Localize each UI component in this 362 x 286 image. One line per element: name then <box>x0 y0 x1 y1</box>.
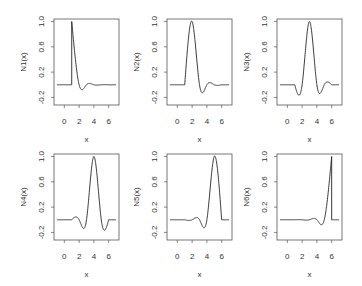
curve-line <box>57 157 116 231</box>
curve-line <box>280 22 339 96</box>
x-tick-label: 2 <box>190 117 195 126</box>
x-tick-label: 2 <box>77 252 82 261</box>
y-tick-label: -0.2 <box>37 225 46 239</box>
y-tick-label: -0.2 <box>260 225 269 239</box>
x-tick-label: 0 <box>62 252 67 261</box>
x-tick-label: 6 <box>106 252 111 261</box>
x-axis-label: x <box>85 135 89 144</box>
y-tick-label: 1.0 <box>37 15 46 27</box>
plot-frame <box>167 19 232 105</box>
x-tick-label: 4 <box>315 252 320 261</box>
y-tick-label: -0.2 <box>150 225 159 239</box>
y-tick-label: 1.0 <box>150 150 159 162</box>
y-tick-label: 0.6 <box>150 41 159 53</box>
x-tick-label: 2 <box>77 117 82 126</box>
y-tick-label: 0.2 <box>37 66 46 78</box>
y-tick-label: 1.0 <box>260 15 269 27</box>
x-tick-label: 4 <box>315 117 320 126</box>
x-tick-label: 4 <box>205 252 210 261</box>
panel-n2x: 02461.00.60.2-0.2xN2(x) <box>132 15 232 144</box>
x-axis-label: x <box>198 270 202 279</box>
panel-n3x: 02461.00.60.2-0.2xN3(x) <box>242 15 342 144</box>
y-tick-label: 0.2 <box>260 66 269 78</box>
curve-line <box>57 22 116 90</box>
x-axis-label: x <box>308 270 312 279</box>
y-axis-label: N5(x) <box>132 187 141 207</box>
y-tick-label: 0.2 <box>150 66 159 78</box>
plot-frame <box>167 154 232 240</box>
plot-frame <box>54 154 119 240</box>
x-tick-label: 4 <box>205 117 210 126</box>
panel-n6x: 02461.00.60.2-0.2xN6(x) <box>242 150 342 279</box>
panel-n4x: 02461.00.60.2-0.2xN4(x) <box>19 150 119 279</box>
figure: 02461.00.60.2-0.2xN1(x)02461.00.60.2-0.2… <box>0 0 362 286</box>
y-tick-label: 0.6 <box>37 176 46 188</box>
plot-frame <box>54 19 119 105</box>
x-tick-label: 6 <box>219 117 224 126</box>
y-tick-label: 1.0 <box>37 150 46 162</box>
y-tick-label: -0.2 <box>260 90 269 104</box>
x-axis-label: x <box>198 135 202 144</box>
x-tick-label: 4 <box>92 252 97 261</box>
y-axis-label: N1(x) <box>19 52 28 72</box>
y-tick-label: 1.0 <box>150 15 159 27</box>
y-tick-label: 0.2 <box>37 201 46 213</box>
y-tick-label: 0.6 <box>150 176 159 188</box>
y-tick-label: 0.6 <box>37 41 46 53</box>
x-tick-label: 2 <box>300 252 305 261</box>
y-tick-label: 0.2 <box>260 201 269 213</box>
y-axis-label: N2(x) <box>132 52 141 72</box>
y-tick-label: -0.2 <box>150 90 159 104</box>
panel-n5x: 02461.00.60.2-0.2xN5(x) <box>132 150 232 279</box>
x-tick-label: 4 <box>92 117 97 126</box>
x-tick-label: 6 <box>329 117 334 126</box>
curve-line <box>280 157 339 225</box>
plot-frame <box>277 19 342 105</box>
y-tick-label: 0.6 <box>260 176 269 188</box>
x-tick-label: 6 <box>219 252 224 261</box>
y-tick-label: 1.0 <box>260 150 269 162</box>
x-tick-label: 6 <box>329 252 334 261</box>
x-tick-label: 0 <box>62 117 67 126</box>
x-tick-label: 2 <box>300 117 305 126</box>
x-tick-label: 0 <box>175 117 180 126</box>
x-axis-label: x <box>85 270 89 279</box>
y-tick-label: 0.6 <box>260 41 269 53</box>
y-tick-label: -0.2 <box>37 90 46 104</box>
panel-n1x: 02461.00.60.2-0.2xN1(x) <box>19 15 119 144</box>
y-axis-label: N6(x) <box>242 187 251 207</box>
y-axis-label: N4(x) <box>19 187 28 207</box>
y-axis-label: N3(x) <box>242 52 251 72</box>
curve-line <box>170 156 229 228</box>
curve-line <box>170 21 229 93</box>
x-tick-label: 0 <box>175 252 180 261</box>
x-tick-label: 0 <box>285 117 290 126</box>
x-tick-label: 0 <box>285 252 290 261</box>
plot-frame <box>277 154 342 240</box>
x-tick-label: 6 <box>106 117 111 126</box>
x-axis-label: x <box>308 135 312 144</box>
y-tick-label: 0.2 <box>150 201 159 213</box>
x-tick-label: 2 <box>190 252 195 261</box>
